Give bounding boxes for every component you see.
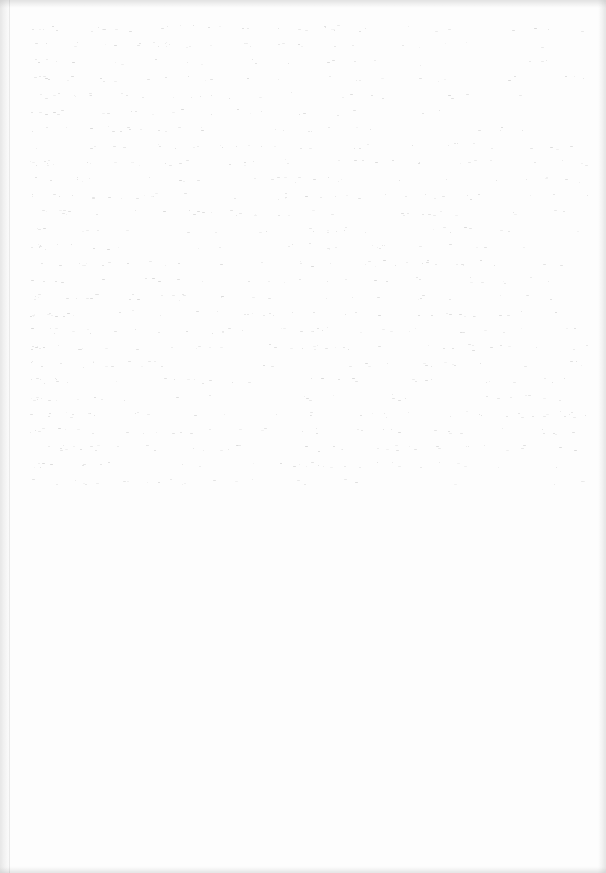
bleed-speck — [155, 59, 157, 60]
bleed-speck — [72, 414, 74, 415]
bleed-speck — [161, 28, 164, 29]
bleed-speck — [121, 198, 122, 199]
bleed-speck — [66, 298, 69, 299]
bleed-speck — [190, 433, 193, 434]
bleed-speck — [395, 445, 398, 446]
bleed-speck — [344, 230, 345, 231]
bleed-speck — [83, 483, 85, 484]
bleed-speck — [486, 396, 488, 397]
bleed-speck — [71, 76, 74, 77]
bleed-speck — [498, 467, 499, 468]
bleed-speck — [77, 179, 78, 180]
bleed-speck — [108, 462, 110, 463]
bleed-speck — [344, 479, 347, 480]
bleed-speck — [337, 115, 339, 116]
bleed-speck — [335, 196, 336, 197]
bleed-speck — [178, 263, 180, 264]
bleed-speck — [149, 261, 152, 262]
bleed-speck — [392, 462, 393, 463]
bleed-speck — [449, 314, 452, 315]
bleed-speck — [127, 263, 129, 264]
bleed-speck — [66, 214, 67, 215]
bleed-speck — [67, 313, 70, 314]
bleed-speck — [220, 347, 223, 348]
bleed-speck — [449, 244, 452, 245]
bleed-speck — [387, 363, 388, 364]
bleed-speck — [526, 295, 527, 296]
bleed-speck — [161, 295, 163, 296]
bleed-speck — [536, 347, 537, 348]
bleed-speck — [398, 466, 401, 467]
bleed-speck — [35, 43, 38, 44]
bleed-speck — [299, 279, 301, 280]
bleed-speck — [90, 95, 92, 96]
bleed-speck — [197, 146, 199, 147]
bleed-speck — [33, 316, 34, 317]
page-top-edge-shadow — [0, 0, 606, 8]
bleed-speck — [87, 162, 88, 163]
bleed-speck — [354, 160, 357, 161]
bleed-speck — [127, 481, 129, 482]
bleed-speck — [343, 347, 345, 348]
bleed-speck — [328, 177, 329, 178]
bleed-speck — [327, 327, 328, 328]
bleed-speck — [454, 143, 456, 144]
bleed-speck — [323, 466, 324, 467]
bleed-speck — [228, 449, 229, 450]
bleed-speck — [386, 281, 388, 282]
bleed-speck — [587, 195, 588, 196]
bleed-speck — [92, 198, 95, 199]
bleed-speck — [278, 199, 279, 200]
bleed-speck — [268, 281, 270, 282]
bleed-speck — [56, 61, 57, 62]
bleed-speck — [255, 63, 257, 64]
bleed-speck — [440, 211, 442, 212]
bleed-speck — [300, 263, 302, 264]
bleed-speck — [32, 346, 34, 347]
bleed-speck — [526, 295, 529, 296]
bleed-speck — [56, 381, 59, 382]
bleed-speck — [407, 213, 409, 214]
bleed-speck — [460, 163, 461, 164]
bleed-speck — [422, 263, 423, 264]
bleed-speck — [35, 430, 36, 431]
bleed-speck — [58, 428, 61, 429]
bleed-speck — [98, 27, 99, 28]
bleed-speck — [102, 279, 105, 280]
bleed-speck — [198, 248, 199, 249]
bleed-speck — [305, 30, 308, 31]
bleed-speck — [183, 181, 185, 182]
bleed-speck — [302, 431, 303, 432]
bleed-speck — [512, 30, 515, 31]
bleed-speck — [90, 446, 93, 447]
bleed-speck — [164, 378, 167, 379]
bleed-speck — [285, 193, 287, 194]
bleed-speck — [186, 160, 189, 161]
bleed-speck — [72, 195, 73, 196]
bleed-speck — [60, 450, 63, 451]
bleed-speck — [390, 331, 393, 332]
bleed-speck — [55, 316, 58, 317]
bleed-speck — [450, 232, 451, 233]
bleed-speck — [542, 429, 543, 430]
bleed-speck — [248, 382, 251, 383]
bleed-speck — [43, 76, 46, 77]
bleed-speck — [43, 228, 46, 229]
bleed-speck — [456, 264, 458, 265]
bleed-speck — [356, 127, 358, 128]
bleed-speck — [66, 127, 67, 128]
bleed-speck — [82, 181, 83, 182]
bleed-speck — [385, 194, 386, 195]
bleed-speck — [301, 46, 303, 47]
bleed-speck — [194, 415, 197, 416]
bleed-speck — [38, 62, 40, 63]
bleed-speck — [470, 282, 473, 283]
bleed-speck — [34, 314, 35, 315]
bleed-speck — [466, 94, 469, 95]
bleed-speck — [431, 379, 432, 380]
bleed-speck — [34, 77, 37, 78]
bleed-speck — [201, 127, 202, 128]
bleed-speck — [581, 481, 584, 482]
bleed-speck — [73, 446, 75, 447]
bleed-speck — [172, 295, 175, 296]
